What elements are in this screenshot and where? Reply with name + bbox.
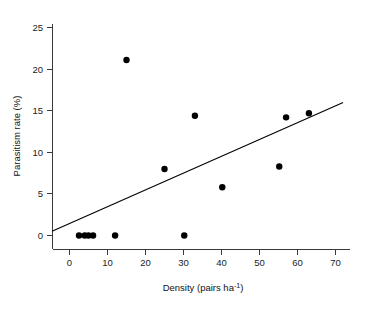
scatter-plot: 0 5 10 15 20 25 0 10 20 30 40 50 60 70 xyxy=(0,0,366,314)
data-point xyxy=(219,184,225,190)
data-points-group xyxy=(76,57,312,239)
x-axis-title-tail: ) xyxy=(240,282,243,293)
y-tick-label-10: 10 xyxy=(32,147,43,158)
y-tick-label-15: 15 xyxy=(32,105,43,116)
y-axis-title: Parasitism rate (%) xyxy=(11,96,22,177)
chart-figure: 0 5 10 15 20 25 0 10 20 30 40 50 60 70 xyxy=(0,0,366,314)
data-point xyxy=(181,232,187,238)
x-tick-label-60: 60 xyxy=(292,257,303,268)
axes-group xyxy=(53,24,351,250)
y-axis-ticks: 0 5 10 15 20 25 xyxy=(32,22,52,241)
x-axis-title-base: Density (pairs ha xyxy=(163,282,235,293)
y-tick-label-20: 20 xyxy=(32,64,43,75)
x-tick-label-0: 0 xyxy=(67,257,72,268)
data-point xyxy=(276,163,282,169)
data-point xyxy=(76,232,82,238)
x-tick-label-20: 20 xyxy=(140,257,151,268)
data-point xyxy=(192,112,198,118)
x-tick-label-30: 30 xyxy=(178,257,189,268)
regression-line xyxy=(52,102,343,231)
x-tick-label-70: 70 xyxy=(330,257,341,268)
data-point xyxy=(161,166,167,172)
y-tick-label-5: 5 xyxy=(38,188,43,199)
y-tick-label-25: 25 xyxy=(32,22,43,33)
x-axis-title: Density (pairs ha-1) xyxy=(163,282,244,294)
data-point xyxy=(306,110,312,116)
y-tick-label-0: 0 xyxy=(38,230,43,241)
data-point xyxy=(90,232,96,238)
x-tick-label-40: 40 xyxy=(216,257,227,268)
data-point xyxy=(283,114,289,120)
data-point xyxy=(112,232,118,238)
x-tick-label-50: 50 xyxy=(254,257,265,268)
x-tick-label-10: 10 xyxy=(102,257,113,268)
data-point xyxy=(123,57,129,63)
x-axis-ticks: 0 10 20 30 40 50 60 70 xyxy=(67,250,341,269)
